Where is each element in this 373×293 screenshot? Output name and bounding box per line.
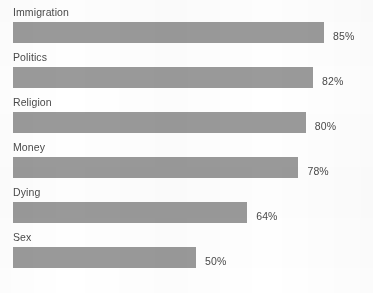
bar-group: 80% xyxy=(13,112,336,133)
category-label: Immigration xyxy=(13,6,69,19)
value-label: 82% xyxy=(322,75,343,87)
value-label: 64% xyxy=(256,210,277,222)
bar-group: 85% xyxy=(13,22,354,43)
bar-group: 82% xyxy=(13,67,343,88)
value-label: 78% xyxy=(307,165,328,177)
category-label: Dying xyxy=(13,186,40,199)
category-label: Religion xyxy=(13,96,52,109)
bar-chart: Immigration 85% Politics 82% Religion 80… xyxy=(0,0,373,293)
chart-row: Money 78% xyxy=(0,141,373,186)
bar xyxy=(13,22,324,43)
bar xyxy=(13,112,306,133)
bar xyxy=(13,202,247,223)
category-label: Politics xyxy=(13,51,47,64)
bar-group: 78% xyxy=(13,157,329,178)
bar xyxy=(13,67,313,88)
chart-row: Politics 82% xyxy=(0,51,373,96)
chart-row: Religion 80% xyxy=(0,96,373,141)
value-label: 85% xyxy=(333,30,354,42)
bar-group: 64% xyxy=(13,202,278,223)
value-label: 50% xyxy=(205,255,226,267)
bar xyxy=(13,247,196,268)
chart-row: Sex 50% xyxy=(0,231,373,276)
bar-group: 50% xyxy=(13,247,226,268)
bar xyxy=(13,157,298,178)
category-label: Sex xyxy=(13,231,31,244)
chart-row: Dying 64% xyxy=(0,186,373,231)
value-label: 80% xyxy=(315,120,336,132)
chart-row: Immigration 85% xyxy=(0,6,373,51)
category-label: Money xyxy=(13,141,45,154)
